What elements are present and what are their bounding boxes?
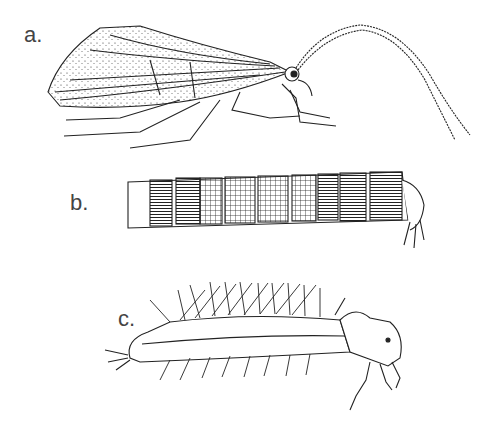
- illustration-canvas: [0, 0, 478, 427]
- adult-caddisfly-illustration: [48, 25, 470, 148]
- larva-case-illustration: [128, 172, 424, 248]
- larva-illustration: [105, 282, 401, 410]
